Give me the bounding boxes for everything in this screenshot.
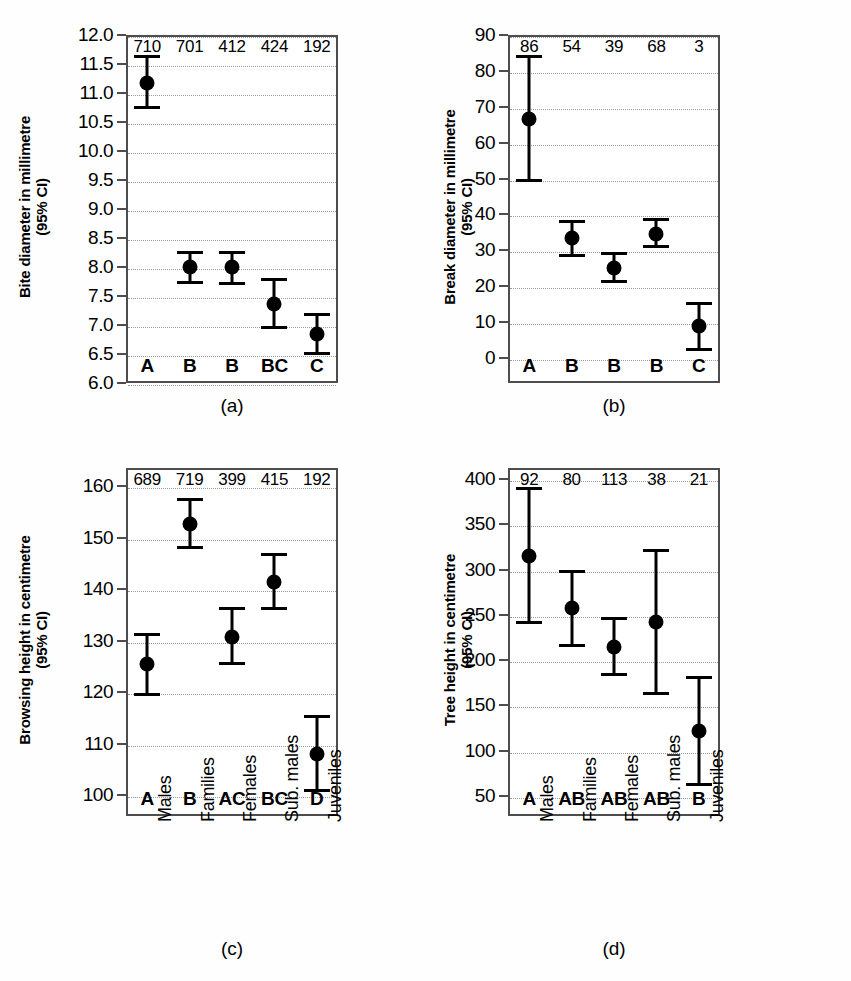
y-tick-mark-b-9 [499,34,508,36]
error-cap-lower-b-4 [686,348,712,351]
gridline-a-6 [128,211,336,212]
x-category-label-c-0: Males [155,775,176,822]
group-letter-b-1: B [565,355,578,377]
data-point-d-2 [607,639,622,654]
error-cap-lower-d-1 [559,644,585,647]
group-letter-b-0: A [522,355,535,377]
y-tick-mark-c-0 [117,794,126,796]
y-tick-mark-b-5 [499,178,508,180]
data-point-b-0 [522,112,537,127]
group-letter-a-4: C [310,355,323,377]
data-point-b-2 [607,261,622,276]
y-tick-label-d-1: 100 [431,740,495,762]
data-point-b-4 [691,319,706,334]
y-tick-label-a-7: 9.5 [49,169,113,191]
group-letter-b-4: C [692,355,705,377]
sample-count-a-3: 424 [261,37,288,57]
data-point-c-3 [267,575,282,590]
y-tick-label-a-1: 6.5 [49,343,113,365]
y-tick-mark-c-3 [117,640,126,642]
y-tick-mark-a-0 [117,382,126,384]
y-tick-label-c-0: 100 [49,784,113,806]
error-cap-upper-c-0 [134,633,160,636]
error-cap-upper-d-3 [643,549,669,552]
group-letter-a-3: BC [261,355,288,377]
sample-count-d-4: 21 [690,470,708,490]
error-cap-lower-c-3 [261,607,287,610]
y-tick-mark-b-3 [499,249,508,251]
gridline-d-2 [510,707,718,708]
y-tick-label-a-5: 8.5 [49,227,113,249]
y-tick-mark-a-4 [117,266,126,268]
y-tick-mark-d-3 [499,659,508,661]
gridline-a-7 [128,182,336,183]
sample-count-c-3: 415 [261,470,288,490]
y-tick-mark-a-2 [117,324,126,326]
sample-count-c-1: 719 [176,470,203,490]
y-tick-mark-c-1 [117,743,126,745]
data-point-d-1 [564,601,579,616]
y-axis-title-line1-c: Browsing height in centimetre [16,466,33,814]
y-tick-label-b-4: 40 [431,203,495,225]
gridline-b-6 [510,145,718,146]
y-tick-mark-d-4 [499,614,508,616]
y-tick-label-a-10: 11.0 [49,82,113,104]
error-cap-lower-b-2 [601,280,627,283]
data-point-a-2 [225,260,240,275]
sample-count-b-3: 68 [647,37,665,57]
data-point-a-3 [267,296,282,311]
group-letter-b-3: B [650,355,663,377]
data-point-c-2 [225,629,240,644]
y-tick-mark-a-6 [117,208,126,210]
error-cap-lower-c-2 [219,662,245,665]
y-tick-mark-d-0 [499,795,508,797]
y-tick-mark-a-10 [117,92,126,94]
error-cap-upper-d-2 [601,617,627,620]
sample-count-d-2: 113 [601,470,627,490]
data-point-b-1 [564,230,579,245]
gridline-d-6 [510,526,718,527]
gridline-c-4 [128,591,336,592]
y-tick-mark-b-8 [499,70,508,72]
error-cap-lower-a-1 [177,281,203,284]
y-tick-label-a-4: 8.0 [49,256,113,278]
y-tick-label-b-2: 20 [431,275,495,297]
gridline-a-5 [128,240,336,241]
y-tick-mark-a-8 [117,150,126,152]
error-cap-upper-b-1 [559,220,585,223]
y-tick-mark-a-9 [117,121,126,123]
data-point-d-4 [691,723,706,738]
y-tick-label-b-9: 90 [431,24,495,46]
y-tick-label-d-3: 200 [431,649,495,671]
y-tick-label-b-3: 30 [431,239,495,261]
y-axis-title-line2-a: (95% CI) [33,33,50,381]
error-cap-upper-b-2 [601,252,627,255]
figure-container: Bite diameter in millimetre(95% CI)6.06.… [0,0,851,981]
gridline-b-2 [510,288,718,289]
gridline-a-10 [128,95,336,96]
y-tick-label-d-5: 300 [431,559,495,581]
sample-count-a-2: 412 [218,37,245,57]
error-cap-upper-c-1 [177,498,203,501]
group-letter-a-0: A [140,355,153,377]
y-tick-label-b-8: 80 [431,60,495,82]
gridline-a-8 [128,153,336,154]
y-tick-label-c-1: 110 [49,733,113,755]
y-axis-title-a: Bite diameter in millimetre(95% CI) [16,33,50,381]
sample-count-a-0: 710 [133,37,160,57]
data-point-a-1 [182,260,197,275]
x-category-label-d-0: Males [537,775,558,822]
x-category-label-d-3: Sub. males [664,735,685,822]
sample-count-b-1: 54 [562,37,580,57]
y-tick-mark-d-1 [499,750,508,752]
y-tick-label-b-5: 50 [431,168,495,190]
error-cap-upper-c-3 [261,553,287,556]
data-point-b-3 [649,227,664,242]
error-cap-upper-c-2 [219,607,245,610]
y-tick-label-a-3: 7.5 [49,285,113,307]
gridline-b-4 [510,216,718,217]
y-tick-mark-a-11 [117,63,126,65]
y-tick-label-c-2: 120 [49,681,113,703]
y-tick-label-a-0: 6.0 [49,372,113,394]
y-tick-label-a-12: 12.0 [49,24,113,46]
